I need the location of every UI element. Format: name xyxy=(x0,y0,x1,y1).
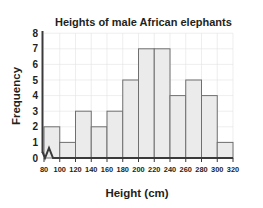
bar-240-260 xyxy=(170,96,186,158)
x-tick-label: 100 xyxy=(54,165,66,174)
x-tick-label: 120 xyxy=(69,165,81,174)
bar-120-140 xyxy=(76,111,92,158)
y-tick-label: 1 xyxy=(32,137,38,148)
x-tick-label: 260 xyxy=(180,165,192,174)
y-tick-label: 8 xyxy=(32,28,38,39)
bar-200-220 xyxy=(139,49,155,158)
bar-160-180 xyxy=(107,111,123,158)
histogram-chart: Heights of male African elephants Freque… xyxy=(0,0,263,208)
y-tick-label: 5 xyxy=(32,75,38,86)
x-tick-label: 320 xyxy=(227,165,239,174)
bar-260-280 xyxy=(186,80,202,158)
y-tick-label: 2 xyxy=(32,121,38,132)
x-tick-label: 200 xyxy=(132,165,144,174)
bar-300-320 xyxy=(217,142,233,158)
bar-140-160 xyxy=(91,127,107,158)
x-axis-title: Height (cm) xyxy=(105,187,168,199)
x-tick-label: 160 xyxy=(101,165,113,174)
x-tick-label: 300 xyxy=(211,165,223,174)
y-tick-label: 7 xyxy=(32,43,38,54)
bar-180-200 xyxy=(123,80,139,158)
y-axis-tick-labels: 0 1 2 3 4 5 6 7 8 xyxy=(32,28,38,164)
chart-title: Heights of male African elephants xyxy=(55,16,232,28)
x-tick-label: 180 xyxy=(117,165,129,174)
x-tick-label: 140 xyxy=(85,165,97,174)
x-tick-label: 280 xyxy=(195,165,207,174)
bar-100-120 xyxy=(60,142,76,158)
y-tick-label: 0 xyxy=(32,153,38,164)
x-tick-label: 220 xyxy=(148,165,160,174)
bar-280-300 xyxy=(202,96,218,158)
y-tick-label: 6 xyxy=(32,59,38,70)
y-axis-title: Frequency xyxy=(10,66,22,125)
x-tick-label: 240 xyxy=(164,165,176,174)
x-tick-label: 80 xyxy=(40,165,48,174)
bar-220-240 xyxy=(154,49,170,158)
y-tick-label: 4 xyxy=(32,90,38,101)
y-tick-label: 3 xyxy=(32,106,38,117)
